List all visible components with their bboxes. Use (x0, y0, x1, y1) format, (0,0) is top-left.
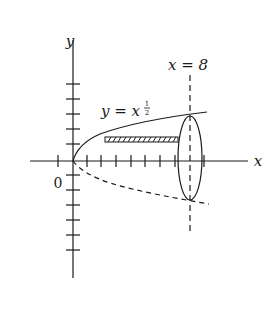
curve-exponent-numerator: 1 (145, 100, 149, 108)
origin-label: 0 (54, 175, 63, 191)
curve-exponent-denominator: 2 (145, 109, 149, 117)
curve-mirror-dashed (73, 161, 209, 204)
x-axis-label: x (254, 152, 263, 170)
curve-label: y = x (100, 102, 141, 120)
hatched-strip (105, 137, 178, 142)
boundary-label: x = 8 (168, 56, 208, 74)
y-axis-label: y (65, 32, 75, 50)
revolution-diagram: y x 0 y = x 1 2 x = 8 (0, 0, 274, 320)
